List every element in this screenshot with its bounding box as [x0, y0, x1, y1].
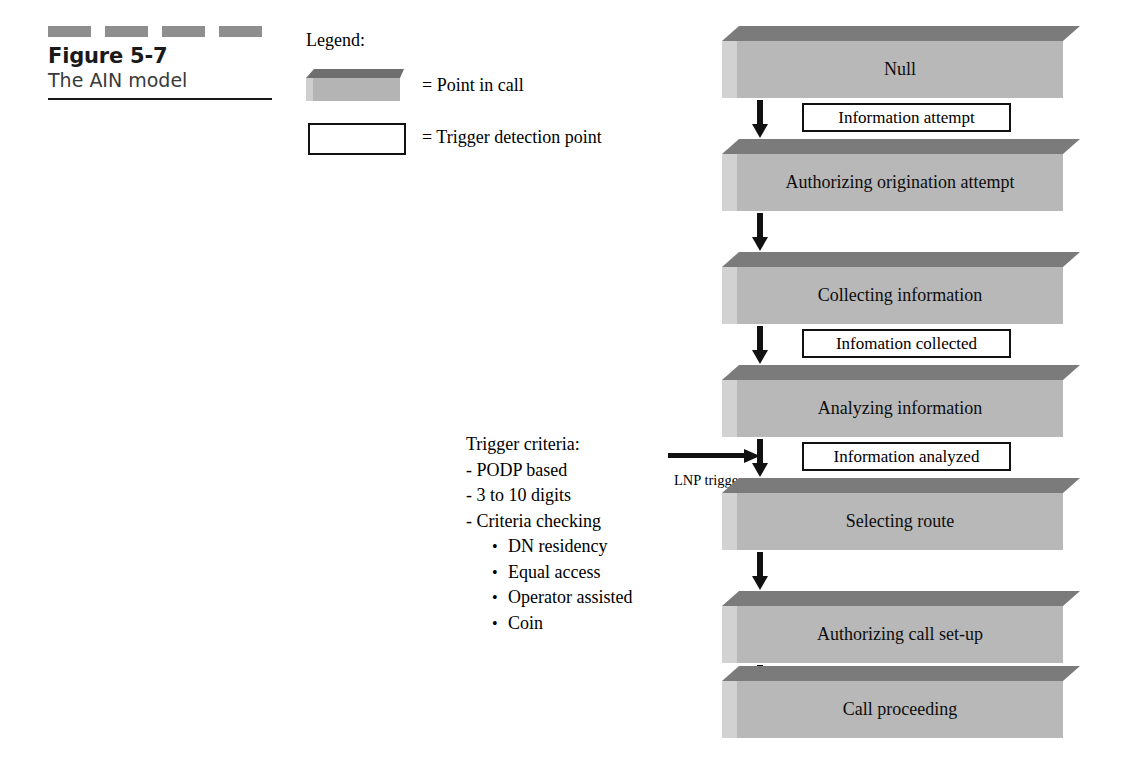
dash-mark [219, 26, 262, 37]
bullet-icon: • [492, 585, 508, 611]
arrow-head [752, 237, 768, 251]
transition-arrow-down-icon [752, 100, 768, 138]
point-in-call-swatch-icon [306, 69, 404, 101]
dash-mark [162, 26, 205, 37]
transition-arrow-down-icon [752, 439, 768, 477]
criteria-bullet-label: DN residency [508, 536, 607, 556]
slab-top-face [722, 365, 1080, 380]
criteria-bullet-item: •Coin [466, 611, 681, 637]
state-node: Authorizing origination attempt [722, 139, 1080, 211]
arrow-shaft [757, 213, 763, 239]
dash-mark [105, 26, 148, 37]
criteria-bullet-label: Operator assisted [508, 587, 632, 607]
state-node: Null [722, 26, 1080, 98]
transition-arrow-down-icon [752, 326, 768, 364]
criteria-dash-item: - 3 to 10 digits [466, 483, 681, 509]
slab-side-face [722, 681, 737, 738]
criteria-bullet-label: Equal access [508, 562, 600, 582]
figure-divider [48, 98, 272, 100]
slab-side-face [722, 380, 737, 437]
legend: Legend: = Point in call = Trigger detect… [306, 30, 646, 169]
state-label: Authorizing origination attempt [737, 154, 1063, 211]
legend-item-point-in-call: = Point in call [306, 65, 646, 117]
legend-title: Legend: [306, 30, 646, 51]
detection-point-box: Information analyzed [802, 442, 1011, 471]
arrow-shaft [757, 100, 763, 126]
arrow-shaft [757, 326, 763, 352]
figure-title: The AIN model [48, 69, 278, 93]
criteria-dash-item: - Criteria checking [466, 509, 681, 535]
figure-number: Figure 5-7 [48, 44, 278, 68]
slab-top-face [722, 26, 1080, 41]
bullet-icon: • [492, 611, 508, 637]
legend-item-label: = Trigger detection point [422, 127, 602, 148]
criteria-bullet-item: •DN residency [466, 534, 681, 560]
trigger-detection-point-swatch-icon [308, 123, 406, 155]
slab-side-face [722, 267, 737, 324]
state-label: Analyzing information [737, 380, 1063, 437]
ain-state-flow: Null Information attempt Authorizing ori… [722, 26, 1082, 738]
state-label: Call proceeding [737, 681, 1063, 738]
slab-top-face [722, 139, 1080, 154]
slab-top-face [722, 591, 1080, 606]
slab-side-face [722, 493, 737, 550]
slab-side-face [722, 606, 737, 663]
decorative-dash-row [48, 26, 278, 37]
state-node: Collecting information [722, 252, 1080, 324]
state-node: Selecting route [722, 478, 1080, 550]
swatch-top-face [306, 69, 404, 78]
arrow-shaft [757, 439, 763, 465]
state-label: Collecting information [737, 267, 1063, 324]
criteria-bullet-item: •Equal access [466, 560, 681, 586]
transition-arrow-down-icon [752, 213, 768, 251]
state-node: Call proceeding [722, 666, 1080, 738]
criteria-dash-item: - PODP based [466, 458, 681, 484]
arrow-head [752, 463, 768, 477]
swatch-side-face [306, 78, 313, 101]
bullet-icon: • [492, 560, 508, 586]
legend-item-label: = Point in call [422, 75, 524, 96]
trigger-criteria-heading: Trigger criteria: [466, 432, 681, 458]
arrow-head [752, 350, 768, 364]
figure-header: Figure 5-7 The AIN model [48, 26, 278, 100]
criteria-bullet-label: Coin [508, 613, 543, 633]
swatch-front-face [306, 78, 400, 101]
state-label: Null [737, 41, 1063, 98]
trigger-criteria-block: Trigger criteria: - PODP based - 3 to 10… [466, 432, 681, 636]
slab-side-face [722, 154, 737, 211]
state-node: Analyzing information [722, 365, 1080, 437]
state-label: Authorizing call set-up [737, 606, 1063, 663]
dash-mark [48, 26, 91, 37]
transition-arrow-down-icon [752, 552, 768, 590]
detection-point-box: Infomation collected [802, 329, 1011, 358]
slab-side-face [722, 41, 737, 98]
figure-page: Figure 5-7 The AIN model Legend: = Point… [0, 0, 1143, 763]
slab-top-face [722, 252, 1080, 267]
criteria-bullet-item: •Operator assisted [466, 585, 681, 611]
arrow-head [752, 124, 768, 138]
arrow-head [752, 576, 768, 590]
slab-top-face [722, 666, 1080, 681]
detection-point-box: Information attempt [802, 103, 1011, 132]
legend-item-trigger-detection-point: = Trigger detection point [306, 117, 646, 169]
slab-top-face [722, 478, 1080, 493]
bullet-icon: • [492, 534, 508, 560]
state-label: Selecting route [737, 493, 1063, 550]
state-node: Authorizing call set-up [722, 591, 1080, 663]
arrow-shaft [757, 552, 763, 578]
